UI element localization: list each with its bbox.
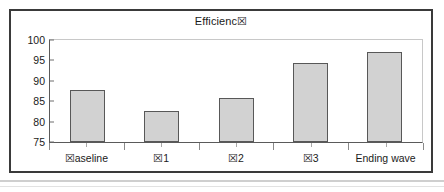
bar-slot [348,40,422,142]
plot-area: 1009590858075 [49,39,423,143]
y-axis-tick-label: 75 [33,136,50,148]
bar-slot [273,40,347,142]
bar[interactable] [367,52,402,142]
bar-slot [124,40,198,142]
bar-series [50,40,422,142]
x-axis-minor-tick [236,143,237,147]
x-axis-category-label: ☒aseline [49,149,124,167]
y-axis-tick-label: 95 [33,54,50,66]
x-axis-minor-tick [161,143,162,147]
bar[interactable] [144,111,179,142]
x-axis-category-label: ☒2 [199,149,274,167]
y-axis-tick-label: 90 [33,75,50,87]
x-axis-minor-tick [311,143,312,147]
x-axis-category-label: Ending wave [348,149,423,167]
x-axis-category-label: ☒1 [124,149,199,167]
chart-figure: Efficienc☒ 1009590858075 ☒aseline☒1☒2☒3E… [9,9,433,173]
bar[interactable] [293,63,328,142]
x-axis-category-label: ☒3 [273,149,348,167]
chart-title: Efficienc☒ [11,15,431,28]
figure-shadow [0,180,444,182]
bar-slot [199,40,273,142]
bar[interactable] [70,90,105,142]
y-axis-tick-label: 80 [33,116,50,128]
figure-shadow-secondary [0,186,444,187]
x-axis-minor-tick [86,143,87,147]
x-axis-minor-tick [386,143,387,147]
x-axis-labels: ☒aseline☒1☒2☒3Ending wave [49,149,423,167]
y-axis-tick-label: 100 [27,34,50,46]
bar[interactable] [219,98,254,142]
x-axis-category-separator [423,143,424,150]
bar-slot [50,40,124,142]
y-axis-tick-label: 85 [33,95,50,107]
